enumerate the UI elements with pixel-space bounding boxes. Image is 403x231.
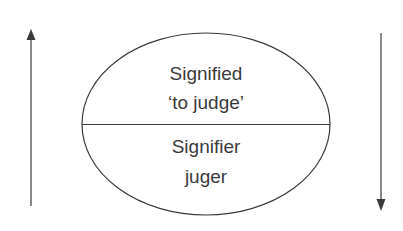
- left-up-arrow-icon: [27, 29, 36, 206]
- signified-meaning: ‘to judge’: [106, 92, 306, 114]
- signified-label: Signified: [106, 63, 306, 85]
- signifier-label: Signifier: [106, 136, 306, 158]
- signifier-word: juger: [106, 166, 306, 188]
- right-down-arrow-icon: [377, 33, 386, 211]
- sign-diagram: [0, 0, 403, 231]
